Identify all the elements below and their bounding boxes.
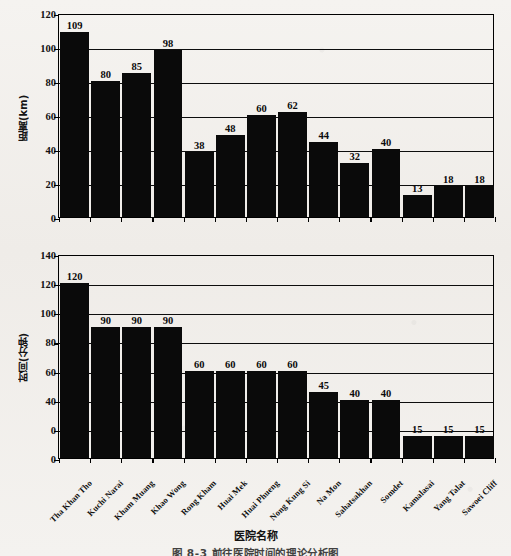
bar[interactable] [340,163,369,217]
figure-container: 距离(km) 120100806040200 10980859838486062… [0,0,511,556]
bar[interactable] [91,81,120,217]
bar[interactable] [60,32,89,217]
x-axis-ticklet [59,458,60,463]
bar[interactable] [465,436,494,458]
y-axis-tick-label: 40 [46,395,57,406]
bar[interactable] [247,371,276,458]
bar[interactable] [154,327,183,458]
plot-area-time: 12090909060606060454040151515 [58,255,494,459]
bar-value-label: 32 [350,151,361,162]
bar[interactable] [403,436,432,458]
bar-value-label: 15 [443,424,454,435]
bar-value-label: 60 [256,359,267,370]
x-axis-ticklet [184,458,185,463]
x-axis-ticklet [402,217,403,222]
x-axis-ticklet [59,217,60,222]
x-axis-ticklet [402,458,403,463]
bar[interactable] [278,112,307,217]
x-axis-category-label: Somdet [378,478,405,505]
bar[interactable] [122,73,151,218]
x-axis-ticklet [90,458,91,463]
bar[interactable] [372,400,401,458]
bar-value-label: 13 [412,183,423,194]
x-axis-category-label: Na Mon [314,478,343,507]
bar-value-label: 18 [474,174,485,185]
bar-value-label: 48 [225,123,236,134]
bar-value-label: 40 [350,388,361,399]
y-axis-tick-label: 80 [46,77,57,88]
chart-panel-time: 时间(分钟) 14012010080604000 120909090606060… [0,245,511,477]
x-axis-ticklet [121,458,122,463]
y-axis-tick-label: 120 [40,279,56,290]
y-axis-tick-label: 140 [40,250,56,261]
bar[interactable] [154,50,183,217]
bar[interactable] [185,371,214,458]
x-axis-ticklet [184,217,185,222]
figure-caption: 图 8-3 前往医院时间的理论分析图 [0,545,511,556]
bar[interactable] [278,371,307,458]
y-axis-ticks-time: 14012010080604000 [0,245,56,477]
x-axis-ticklet [215,217,216,222]
x-axis-ticklet [215,458,216,463]
bar-value-label: 40 [381,137,392,148]
bar[interactable] [216,371,245,458]
x-axis-ticklet [339,217,340,222]
bar-value-label: 44 [318,130,329,141]
x-axis-ticklet [152,217,153,222]
x-axis-ticklet [277,458,278,463]
x-axis-ticklet [464,217,465,222]
y-axis-tick-label: 60 [46,366,57,377]
bar-value-label: 45 [318,380,329,391]
bar-series: 12090909060606060454040151515 [59,256,493,458]
x-axis-ticklet [433,458,434,463]
bar-value-label: 18 [443,174,454,185]
bar-value-label: 40 [381,388,392,399]
bar[interactable] [403,195,432,217]
bar-value-label: 80 [100,69,111,80]
bar[interactable] [60,283,89,458]
bar[interactable] [247,115,276,217]
bar-value-label: 60 [225,359,236,370]
bar-value-label: 90 [100,315,111,326]
x-axis-ticklet [246,217,247,222]
x-axis-ticklet [246,458,247,463]
bar-value-label: 85 [132,61,143,72]
bar[interactable] [309,142,338,217]
bar[interactable] [122,327,151,458]
bar-value-label: 15 [412,424,423,435]
x-axis-ticklet [370,458,371,463]
bar[interactable] [91,327,120,458]
bar[interactable] [434,436,463,458]
chart-panel-distance: 距离(km) 120100806040200 10980859838486062… [0,4,511,236]
x-axis-ticklet [339,458,340,463]
bar-value-label: 120 [67,271,83,282]
bar[interactable] [340,400,369,458]
x-axis-ticklet [370,217,371,222]
bar-value-label: 15 [474,424,485,435]
x-axis-ticklet [152,458,153,463]
bar-value-label: 60 [287,359,298,370]
bar[interactable] [216,135,245,217]
x-axis-ticklet [308,217,309,222]
y-axis-tick-label: 0 [51,213,56,224]
bar-value-label: 90 [163,315,174,326]
bar[interactable] [465,186,494,217]
y-axis-tick-label: 80 [46,337,57,348]
plot-area-distance: 10980859838486062443240131818 [58,14,494,218]
x-axis-ticklet [121,217,122,222]
x-axis-ticklet [495,217,496,222]
y-axis-tick-label: 20 [46,179,57,190]
x-axis-ticklet [308,458,309,463]
bar-value-label: 62 [287,100,298,111]
bar[interactable] [309,392,338,458]
x-axis-category-label: Tha Khan Tho [47,478,93,524]
x-axis-title: 医院名称 [0,527,511,543]
y-axis-tick-label: 100 [40,43,56,54]
bar[interactable] [185,152,214,217]
y-axis-tick-label: 100 [40,308,56,319]
x-axis-ticklet [277,217,278,222]
y-axis-tick-label: 0 [51,454,56,465]
bar[interactable] [434,186,463,217]
x-axis-ticklet [90,217,91,222]
bar[interactable] [372,149,401,217]
